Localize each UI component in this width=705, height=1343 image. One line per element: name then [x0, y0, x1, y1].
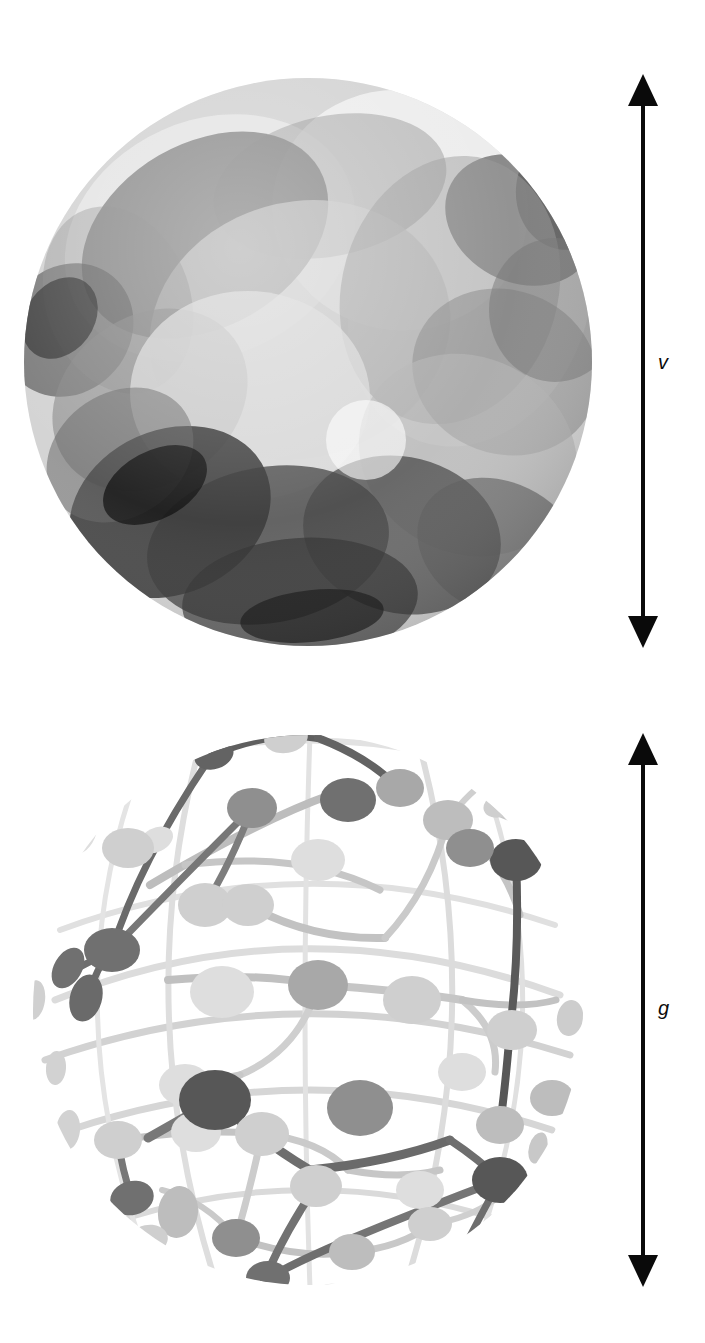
network-node: [190, 966, 254, 1018]
arrowhead-down-icon: [628, 1255, 658, 1287]
network-node: [84, 928, 140, 972]
network-node: [94, 1121, 142, 1159]
network-node: [212, 1219, 260, 1257]
network-node: [568, 852, 603, 897]
dimension-label-v: v: [658, 352, 668, 372]
network-node: [472, 1157, 528, 1203]
network-group: [20, 714, 602, 1310]
arrowhead-down-icon: [628, 616, 658, 648]
network-node: [438, 1053, 486, 1091]
network-node: [480, 788, 520, 822]
network-node: [262, 719, 311, 756]
arrowhead-up-icon: [628, 733, 658, 765]
dimension-arrow-v-svg: [600, 60, 705, 660]
network-node: [56, 804, 105, 861]
network-node: [227, 788, 277, 828]
network-node: [525, 1130, 551, 1166]
covering-caps-group: [0, 69, 620, 670]
network-node: [102, 828, 154, 868]
network-node: [531, 805, 573, 840]
network-node: [288, 960, 348, 1010]
network-node: [177, 1264, 215, 1296]
network-node: [179, 1070, 251, 1130]
network-node: [222, 884, 274, 926]
network-node: [54, 1109, 82, 1151]
network-node: [291, 839, 345, 881]
sphere-network-svg: [0, 700, 620, 1343]
network-node: [386, 1278, 421, 1305]
network-node: [535, 773, 576, 811]
network-node: [530, 1080, 574, 1116]
network-node: [327, 1080, 393, 1136]
dimension-arrow-g: [600, 715, 705, 1305]
network-node: [490, 839, 542, 881]
network-node: [235, 1112, 289, 1156]
network-node: [412, 735, 447, 765]
network-node: [521, 1177, 569, 1220]
sphere-network-panel: [0, 700, 620, 1343]
network-node: [487, 1010, 537, 1050]
network-node: [329, 1234, 375, 1270]
network-node: [311, 1282, 348, 1310]
network-node: [376, 769, 424, 807]
arrowhead-up-icon: [628, 74, 658, 106]
network-node: [438, 1237, 481, 1275]
dimension-arrow-v: [600, 60, 705, 660]
figure-root: v g: [0, 0, 705, 1343]
network-node: [290, 1165, 342, 1207]
sphere-shading-top: [24, 78, 592, 646]
network-node: [446, 829, 494, 867]
network-node: [246, 1261, 290, 1295]
network-node: [320, 778, 376, 822]
network-node: [191, 736, 238, 775]
network-node: [396, 1171, 444, 1209]
dimension-arrow-g-svg: [600, 715, 705, 1305]
network-node: [554, 998, 586, 1038]
dimension-label-g: g: [658, 998, 669, 1018]
network-node: [408, 1207, 452, 1241]
network-node: [353, 714, 391, 742]
network-node: [383, 976, 441, 1024]
network-node: [20, 979, 47, 1022]
network-node: [476, 1106, 524, 1144]
sphere-covering-panel: [0, 0, 620, 700]
sphere-covering-svg: [0, 0, 620, 700]
network-node: [491, 1232, 524, 1264]
